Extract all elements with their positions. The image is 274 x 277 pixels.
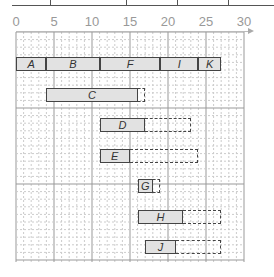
- task-slack-c: [138, 88, 146, 102]
- axis-tick-label: 15: [123, 14, 137, 29]
- axis-tick-label: 20: [161, 14, 175, 29]
- task-bar-j: J: [145, 240, 175, 254]
- axis-tick-label: 5: [50, 14, 57, 29]
- task-slack-j: [176, 240, 222, 254]
- task-label: E: [101, 150, 129, 162]
- task-bar-a: A: [16, 57, 46, 71]
- axis-tick-label: 30: [237, 14, 251, 29]
- task-bar-e: E: [100, 149, 130, 163]
- task-label: H: [139, 211, 183, 223]
- task-label: K: [199, 58, 220, 70]
- task-slack-h: [183, 210, 221, 224]
- task-bar-k: K: [198, 57, 221, 71]
- task-bar-b: B: [46, 57, 99, 71]
- task-label: F: [101, 58, 160, 70]
- gantt-grid: [0, 0, 274, 277]
- task-slack-e: [130, 149, 198, 163]
- task-label: G: [139, 180, 152, 192]
- axis-arrow-icon: [248, 28, 254, 34]
- task-label: B: [47, 58, 98, 70]
- axis-tick-label: 25: [199, 14, 213, 29]
- task-bar-c: C: [46, 88, 137, 102]
- axis-tick-label: 10: [85, 14, 99, 29]
- axis-tick-label: 0: [12, 14, 19, 29]
- task-label: I: [161, 58, 197, 70]
- task-slack-g: [153, 179, 161, 193]
- task-slack-d: [145, 118, 191, 132]
- task-label: D: [101, 119, 145, 131]
- task-bar-i: I: [160, 57, 198, 71]
- task-bar-f: F: [100, 57, 161, 71]
- task-label: C: [47, 89, 136, 101]
- time-axis-line: [16, 31, 250, 32]
- task-bar-d: D: [100, 118, 146, 132]
- task-label: J: [146, 241, 174, 253]
- task-bar-g: G: [138, 179, 153, 193]
- task-bar-h: H: [138, 210, 184, 224]
- task-label: A: [17, 58, 45, 70]
